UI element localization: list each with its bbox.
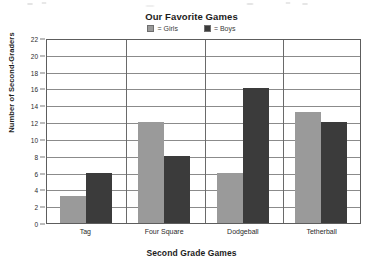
bar-boys-tag [86, 173, 112, 223]
bars-layer [47, 40, 360, 223]
legend-label: = Boys [214, 25, 236, 32]
bar-boys-four-square [164, 156, 190, 223]
legend-item: = Boys [204, 25, 236, 32]
bar-girls-four-square [138, 122, 164, 223]
y-tick-mark [40, 173, 45, 174]
bar-girls-tag [60, 196, 86, 223]
bar-girls-tetherball [295, 112, 321, 223]
scan-artifact [0, 0, 383, 9]
bar-boys-tetherball [321, 122, 347, 223]
y-tick-mark [40, 39, 45, 40]
y-tick-mark [40, 55, 45, 56]
y-tick-label: 6 [34, 170, 38, 177]
y-tick-mark [40, 106, 45, 107]
y-tick-label: 2 [34, 204, 38, 211]
plot-area [46, 39, 361, 224]
legend-item: = Girls [147, 25, 177, 32]
y-tick-label: 20 [31, 52, 38, 59]
legend-label: = Girls [157, 25, 177, 32]
y-tick-label: 18 [31, 69, 38, 76]
y-tick-mark [40, 207, 45, 208]
y-tick-label: 10 [31, 136, 38, 143]
bar-group [125, 40, 203, 223]
bar-boys-dodgeball [243, 88, 269, 223]
x-axis-title: Second Grade Games [0, 248, 383, 258]
y-tick-mark [40, 123, 45, 124]
y-tick-mark [40, 224, 45, 225]
chart-legend: = Girls= Boys [0, 25, 383, 32]
bar-group [204, 40, 282, 223]
y-tick-mark [40, 72, 45, 73]
y-tick-label: 22 [31, 36, 38, 43]
bar-group [47, 40, 125, 223]
x-tick-label: Tag [46, 228, 125, 235]
y-tick-label: 16 [31, 86, 38, 93]
y-tick-label: 8 [34, 153, 38, 160]
y-tick-mark [40, 139, 45, 140]
x-axis-tick-labels: TagFour SquareDodgeballTetherball [46, 228, 361, 235]
y-tick-mark [40, 156, 45, 157]
x-tick-label: Four Square [125, 228, 204, 235]
bar-girls-dodgeball [217, 173, 243, 223]
y-tick-mark [40, 89, 45, 90]
y-tick-mark [40, 190, 45, 191]
y-tick-label: 4 [34, 187, 38, 194]
y-tick-label: 0 [34, 221, 38, 228]
chart-title: Our Favorite Games [0, 11, 383, 22]
y-axis-ticks: 0246810121416182022 [0, 39, 46, 224]
y-tick-label: 12 [31, 120, 38, 127]
x-tick-label: Tetherball [282, 228, 361, 235]
legend-swatch-icon [147, 25, 154, 32]
bar-group [282, 40, 360, 223]
y-tick-label: 14 [31, 103, 38, 110]
x-tick-label: Dodgeball [204, 228, 283, 235]
legend-swatch-icon [204, 25, 211, 32]
